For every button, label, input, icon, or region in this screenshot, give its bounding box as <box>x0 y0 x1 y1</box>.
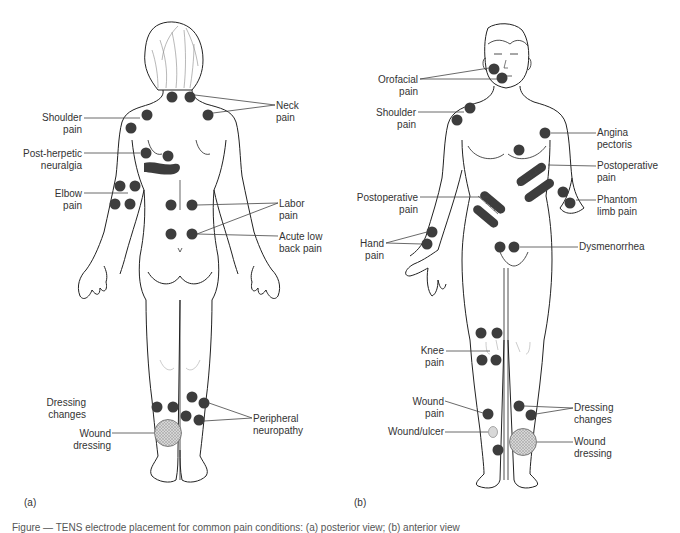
electrode-labor-2 <box>187 200 198 211</box>
label-line: Postoperative <box>597 160 658 172</box>
head-back-outline <box>145 22 203 90</box>
label-line: dressing <box>50 440 111 452</box>
wound-ulcer <box>489 427 498 438</box>
label-line: Peripheral <box>253 413 303 425</box>
leaders-b <box>386 68 596 442</box>
label-peripheral-neuropathy: Peripheral neuropathy <box>253 413 303 437</box>
label-line: pain <box>276 112 299 124</box>
label-line: Elbow <box>30 188 82 200</box>
electrode-elbow-4 <box>125 199 136 210</box>
label-shoulder-a: Shoulder pain <box>24 112 82 136</box>
label-wound-ulcer: Wound/ulcer <box>380 426 444 438</box>
electrode-hand-1 <box>427 227 438 238</box>
electrode-dysmen-1 <box>495 242 506 253</box>
label-line: pain <box>400 357 444 369</box>
electrode-neck-2 <box>185 92 196 103</box>
electrode-elbow-2 <box>130 181 141 192</box>
electrode-phantom-1 <box>558 187 569 198</box>
label-dressing-changes-a: Dressing changes <box>30 397 86 421</box>
label-wound-dressing-a: Wound dressing <box>50 428 111 452</box>
electrode-knee-4 <box>491 355 502 366</box>
panel-tag-b: (b) <box>354 497 366 508</box>
label-elbow: Elbow pain <box>30 188 82 212</box>
label-orofacial: Orofacial pain <box>350 74 418 98</box>
label-line: pain <box>24 124 82 136</box>
label-line: Wound <box>574 436 612 448</box>
label-line: limb pain <box>597 206 637 218</box>
hand-left-back <box>78 266 106 298</box>
label-postop-left: Postoperative pain <box>597 160 658 184</box>
legs-back-outline <box>146 300 212 482</box>
label-line: dressing <box>574 448 612 460</box>
electrode-angina <box>540 128 551 139</box>
label-line: Orofacial <box>350 74 418 86</box>
label-line: changes <box>30 409 86 421</box>
figure-caption: Figure — TENS electrode placement for co… <box>12 522 460 533</box>
label-line: Wound <box>400 396 444 408</box>
label-wound-pain: Wound pain <box>400 396 444 420</box>
electrode-neck-3 <box>203 110 214 121</box>
electrode-neuro-2 <box>199 398 210 409</box>
label-line: Labor <box>279 198 305 210</box>
electrode-herpetic-strip <box>144 162 180 174</box>
panel-tag-a: (a) <box>24 497 36 508</box>
label-line: Angina <box>597 127 632 139</box>
wound-dressing-a <box>155 420 182 447</box>
electrode-elbow-3 <box>110 199 121 210</box>
label-line: pain <box>340 204 418 216</box>
label-line: Knee <box>400 345 444 357</box>
label-line: neuropathy <box>253 425 303 437</box>
label-line: neuralgia <box>10 160 82 172</box>
label-line: Postoperative <box>340 192 418 204</box>
electrode-dysmen-2 <box>509 242 520 253</box>
figure-a-posterior <box>78 22 279 482</box>
label-line: changes <box>574 414 613 426</box>
label-hand: Hand pain <box>350 238 384 262</box>
electrode-shoulder-2 <box>126 123 137 134</box>
label-line: Wound/ulcer <box>380 426 444 438</box>
electrode-herpetic-2 <box>163 151 174 162</box>
label-line: Neck <box>276 100 299 112</box>
electrode-dressing-b-1 <box>514 401 525 412</box>
label-line: Dressing <box>574 402 613 414</box>
label-line: pain <box>597 172 658 184</box>
label-line: Dressing <box>30 397 86 409</box>
electrode-chest <box>514 145 525 156</box>
electrode-orofacial-1 <box>489 64 500 75</box>
electrode-elbow-1 <box>115 181 126 192</box>
label-line: Hand <box>350 238 384 250</box>
electrode-shoulder-1 <box>142 110 153 121</box>
label-line: pain <box>350 119 416 131</box>
electrode-knee-2 <box>492 328 503 339</box>
label-knee: Knee pain <box>400 345 444 369</box>
electrode-lowback-2 <box>187 229 198 240</box>
electrode-lower-shin <box>493 445 504 456</box>
electrode-dressing-b-2 <box>526 410 537 421</box>
label-line: Shoulder <box>24 112 82 124</box>
electrode-orofacial-2 <box>497 73 508 84</box>
electrode-shoulder-b-2 <box>452 115 463 126</box>
electrode-knee-3 <box>477 355 488 366</box>
label-line: pain <box>350 250 384 262</box>
label-line: pain <box>350 86 418 98</box>
electrode-hand-2 <box>422 239 433 250</box>
label-dressing-changes-b: Dressing changes <box>574 402 613 426</box>
electrode-neuro-3 <box>181 411 192 422</box>
label-line: pain <box>30 200 82 212</box>
label-acute-low-back: Acute low back pain <box>279 231 322 255</box>
label-line: pain <box>400 408 444 420</box>
electrode-neuro-1 <box>187 392 198 403</box>
label-neck-a: Neck pain <box>276 100 299 124</box>
torso-back-outline <box>86 90 272 270</box>
electrode-shoulder-b-1 <box>465 103 476 114</box>
electrode-wound-pain <box>483 409 494 420</box>
electrode-neck-1 <box>167 92 178 103</box>
label-dysmenorrhea: Dysmenorrhea <box>579 241 645 253</box>
label-shoulder-b: Shoulder pain <box>350 107 416 131</box>
label-postop-right: Postoperative pain <box>340 192 418 216</box>
label-line: Wound <box>50 428 111 440</box>
electrode-dressing-1 <box>152 402 163 413</box>
electrode-dressing-2 <box>168 402 179 413</box>
electrode-phantom-2 <box>565 198 576 209</box>
electrode-neuro-4 <box>194 415 205 426</box>
